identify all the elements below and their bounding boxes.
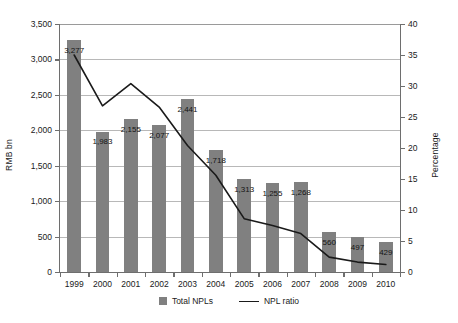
x-axis-tick-label: 2005 — [235, 279, 254, 289]
y-axis-right-tick — [400, 117, 405, 118]
y-axis-right-tick-label: 15 — [408, 174, 417, 184]
x-axis-tick — [343, 272, 344, 277]
x-axis-tick — [258, 272, 259, 277]
x-axis-tick — [202, 272, 203, 277]
x-axis-tick — [287, 272, 288, 277]
npl-chart: RMB bn Percentage 05001,0001,5002,0002,5… — [0, 0, 458, 323]
chart-legend: Total NPLs NPL ratio — [0, 296, 458, 306]
x-axis-tick — [230, 272, 231, 277]
y-axis-left-tick-label: 500 — [38, 232, 52, 242]
x-axis-tick — [400, 272, 401, 277]
plot-area: 05001,0001,5002,0002,5003,0003,500 05101… — [60, 24, 400, 272]
legend-item-total-npls: Total NPLs — [159, 296, 213, 306]
legend-label-total-npls: Total NPLs — [172, 296, 213, 306]
bar-swatch-icon — [159, 297, 167, 305]
x-axis-tick-label: 2001 — [121, 279, 140, 289]
x-axis-tick-label: 2006 — [263, 279, 282, 289]
y-axis-right-tick — [400, 86, 405, 87]
y-axis-left-tick-label: 0 — [47, 267, 52, 277]
legend-item-npl-ratio: NPL ratio — [239, 296, 299, 306]
x-axis-tick-label: 2000 — [93, 279, 112, 289]
x-axis-tick — [173, 272, 174, 277]
y-axis-left-tick-label: 3,000 — [31, 54, 52, 64]
y-axis-right-tick — [400, 55, 405, 56]
x-axis-tick-label: 2004 — [206, 279, 225, 289]
line-swatch-icon — [239, 301, 259, 302]
y-axis-right-tick — [400, 179, 405, 180]
x-axis-tick — [145, 272, 146, 277]
y-axis-left-tick-label: 2,000 — [31, 125, 52, 135]
x-axis-tick — [88, 272, 89, 277]
y-axis-left-tick-label: 1,000 — [31, 196, 52, 206]
x-axis-tick — [60, 272, 61, 277]
x-axis-tick-label: 2002 — [150, 279, 169, 289]
y-axis-right-tick-label: 20 — [408, 143, 417, 153]
y-axis-right-tick-label: 0 — [408, 267, 413, 277]
x-axis-tick-label: 2010 — [376, 279, 395, 289]
y-axis-left-tick-label: 3,500 — [31, 19, 52, 29]
x-axis-tick — [372, 272, 373, 277]
y-axis-title-left: RMB bn — [4, 125, 14, 185]
line-series-npl-ratio — [60, 24, 400, 272]
y-axis-right-tick-label: 30 — [408, 81, 417, 91]
y-axis-right-tick — [400, 148, 405, 149]
y-axis-right-tick-label: 10 — [408, 205, 417, 215]
x-axis-tick-label: 2009 — [348, 279, 367, 289]
y-axis-left-tick-label: 1,500 — [31, 161, 52, 171]
y-axis-right-tick-label: 25 — [408, 112, 417, 122]
x-axis-tick-label: 2003 — [178, 279, 197, 289]
y-axis-right-tick-label: 5 — [408, 236, 413, 246]
x-axis-tick — [315, 272, 316, 277]
x-axis-tick-label: 1999 — [65, 279, 84, 289]
x-axis-tick-label: 2008 — [320, 279, 339, 289]
x-axis-tick-label: 2007 — [291, 279, 310, 289]
legend-label-npl-ratio: NPL ratio — [264, 296, 299, 306]
y-axis-right-tick — [400, 24, 405, 25]
y-axis-left-tick-label: 2,500 — [31, 90, 52, 100]
y-axis-title-right: Percentage — [430, 123, 440, 187]
y-axis-right-tick-label: 40 — [408, 19, 417, 29]
x-axis-tick — [117, 272, 118, 277]
y-axis-right-tick — [400, 210, 405, 211]
y-axis-right-tick-label: 35 — [408, 50, 417, 60]
y-axis-right-tick — [400, 241, 405, 242]
